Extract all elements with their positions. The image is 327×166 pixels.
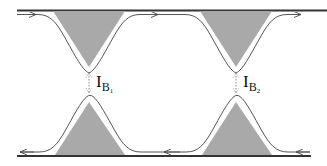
bottom-gate-2 bbox=[202, 102, 272, 155]
bottom-gate-1 bbox=[55, 102, 125, 155]
tunneling-arrow-2 bbox=[233, 73, 239, 93]
top-gate-1 bbox=[53, 11, 125, 67]
top-gate-2 bbox=[200, 11, 272, 67]
tunneling-arrow-1 bbox=[86, 73, 92, 93]
label-IB2-subsub: 2 bbox=[257, 87, 261, 95]
edge-channel-diagram bbox=[0, 0, 327, 166]
label-IB2-main: I bbox=[243, 72, 249, 91]
label-IB2-sub: B bbox=[249, 80, 257, 94]
label-IB1: IB1 bbox=[96, 73, 113, 90]
label-IB1-sub: B bbox=[102, 80, 110, 94]
label-IB1-main: I bbox=[96, 72, 102, 91]
label-IB2: IB2 bbox=[243, 73, 260, 90]
label-IB1-subsub: 1 bbox=[110, 87, 114, 95]
